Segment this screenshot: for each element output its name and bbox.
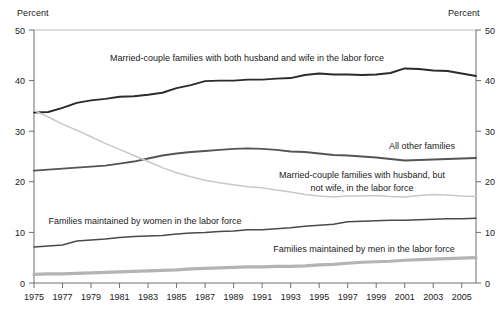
y-axis-ticks-right: 01020304050 bbox=[476, 26, 495, 289]
y-tick-label-left: 20 bbox=[15, 177, 25, 187]
y-tick-label-left: 40 bbox=[15, 76, 25, 86]
y-tick-label-left: 0 bbox=[20, 279, 25, 289]
x-tick-label: 1985 bbox=[167, 292, 187, 302]
y-tick-label-right: 50 bbox=[485, 26, 495, 36]
x-tick-label: 1987 bbox=[195, 292, 215, 302]
y-tick-label-left: 10 bbox=[15, 228, 25, 238]
series-line bbox=[34, 148, 476, 170]
x-tick-label: 2001 bbox=[395, 292, 415, 302]
y-tick-label-right: 40 bbox=[485, 76, 495, 86]
x-axis-ticks: 1975197719791981198319851987198919911993… bbox=[24, 283, 472, 302]
series-line bbox=[34, 68, 476, 112]
y-tick-label-left: 50 bbox=[15, 26, 25, 36]
line-chart-plot: 01020304050 01020304050 1975197719791981… bbox=[0, 0, 504, 321]
x-tick-label: 1981 bbox=[110, 292, 130, 302]
series-line bbox=[34, 258, 476, 275]
label-women-maintained: Families maintained by women in the labo… bbox=[48, 216, 241, 226]
y-axis-ticks-left: 01020304050 bbox=[15, 26, 34, 289]
x-tick-label: 1993 bbox=[281, 292, 301, 302]
y-tick-label-right: 30 bbox=[485, 127, 495, 137]
x-tick-label: 1983 bbox=[138, 292, 158, 302]
chart-container: Percent Percent 01020304050 01020304050 … bbox=[0, 0, 504, 321]
x-tick-label: 1999 bbox=[366, 292, 386, 302]
y-tick-label-right: 10 bbox=[485, 228, 495, 238]
y-tick-label-right: 0 bbox=[485, 279, 490, 289]
y-tick-label-left: 30 bbox=[15, 127, 25, 137]
label-both-spouses: Married-couple families with both husban… bbox=[110, 53, 384, 63]
x-tick-label: 1997 bbox=[338, 292, 358, 302]
label-husband-only-line2: not wife, in the labor force bbox=[310, 183, 413, 193]
x-tick-label: 1975 bbox=[24, 292, 44, 302]
label-all-other: All other families bbox=[389, 141, 456, 151]
x-tick-label: 1989 bbox=[224, 292, 244, 302]
x-tick-label: 1979 bbox=[81, 292, 101, 302]
x-tick-label: 1991 bbox=[252, 292, 272, 302]
label-men-maintained: Families maintained by men in the labor … bbox=[273, 244, 455, 254]
x-tick-label: 2003 bbox=[423, 292, 443, 302]
y-tick-label-right: 20 bbox=[485, 177, 495, 187]
label-husband-only-line1: Married-couple families with husband, bu… bbox=[279, 170, 446, 180]
x-tick-label: 2005 bbox=[452, 292, 472, 302]
x-tick-label: 1995 bbox=[309, 292, 329, 302]
x-tick-label: 1977 bbox=[53, 292, 73, 302]
series-labels-group: Married-couple families with both husban… bbox=[48, 53, 455, 254]
